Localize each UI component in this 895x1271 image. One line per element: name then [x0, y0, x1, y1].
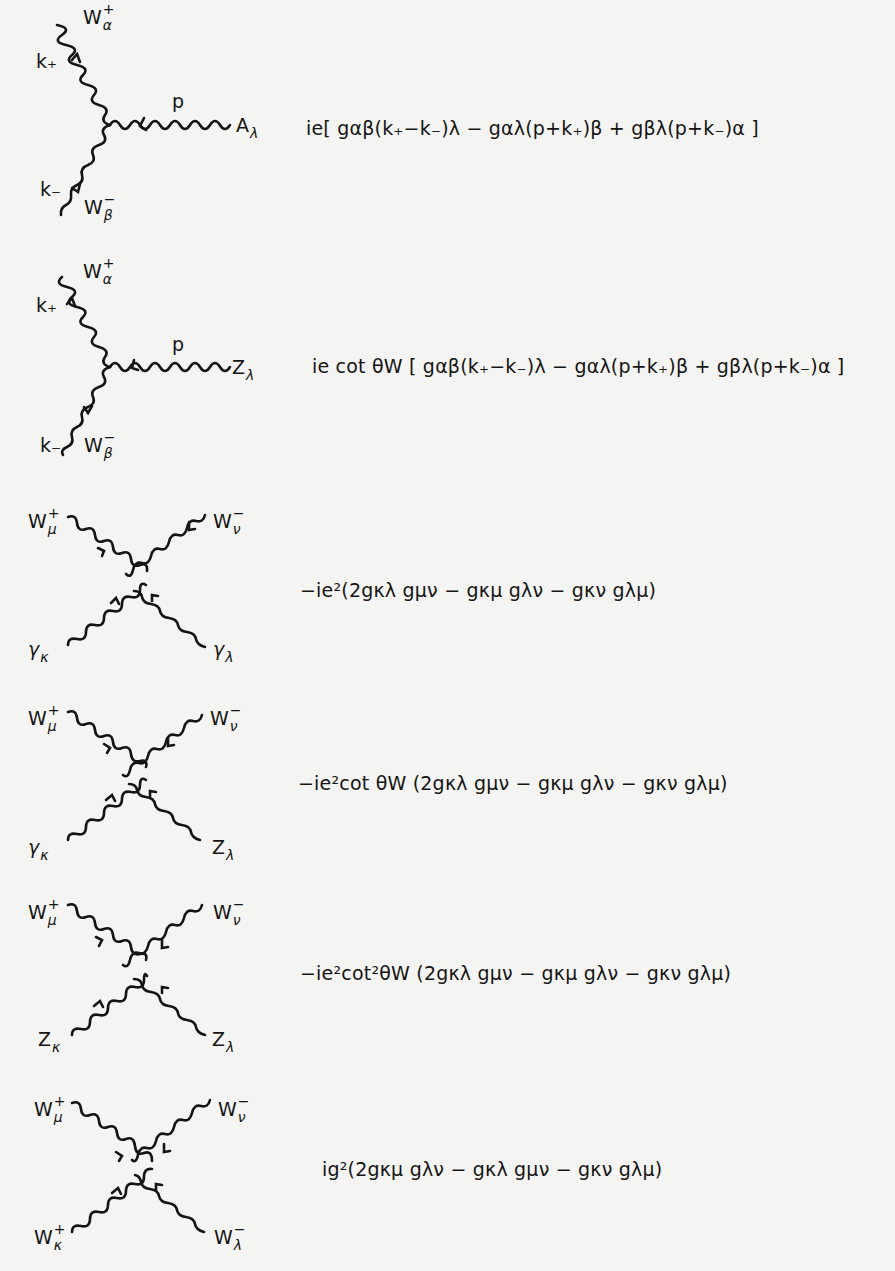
label-w-mu-plus: W+μ — [28, 709, 47, 728]
label-z-lambda: Zλ — [212, 1030, 225, 1049]
label-w-kappa-plus: W+κ — [34, 1228, 53, 1247]
label-k-plus: k₊ — [36, 52, 57, 71]
label-w-beta-minus: W−β — [84, 436, 103, 455]
label-w-alpha-plus: W+α — [83, 8, 102, 27]
vertex-wwz-diagram — [59, 277, 230, 455]
label-k-minus: k₋ — [40, 436, 61, 455]
feynman-diagrams-canvas — [0, 0, 895, 1271]
feynman-rule-wwaz: −ie²cot θW (2gκλ gμν − gκμ gλν − gκν gλμ… — [298, 772, 728, 794]
label-w-nu-minus: W−ν — [218, 1100, 237, 1119]
label-z-lambda: Zλ — [212, 838, 225, 857]
boson-line-photon — [110, 121, 230, 129]
label-k-plus: k₊ — [36, 296, 57, 315]
feynman-rule-wwww: ig²(2gκμ gλν − gκλ gμν − gκν gλμ) — [322, 1158, 662, 1180]
boson-line-w-plus — [57, 25, 110, 125]
label-p: p — [172, 92, 184, 111]
label-z-lambda: Zλ — [232, 358, 245, 377]
vertex-wwww-diagram — [72, 1100, 210, 1232]
feynman-rule-wwaa: −ie²(2gκλ gμν − gκμ gλν − gκν gλμ) — [300, 579, 656, 601]
label-w-beta-minus: W−β — [84, 198, 103, 217]
label-w-nu-minus: W−ν — [213, 903, 232, 922]
label-a-lambda: Aλ — [236, 116, 249, 135]
vertex-wwaz-diagram — [68, 711, 202, 840]
label-w-mu-plus: W+μ — [28, 903, 47, 922]
label-p: p — [172, 335, 184, 354]
label-gamma-kappa: γκ — [28, 640, 39, 659]
label-w-mu-plus: W+μ — [28, 512, 47, 531]
label-w-nu-minus: W−ν — [213, 512, 232, 531]
label-w-mu-plus: W+μ — [34, 1100, 53, 1119]
vertex-wwaa-diagram — [68, 515, 205, 647]
label-w-lambda-minus: W−λ — [214, 1228, 233, 1247]
vertex-wwa-diagram — [57, 25, 230, 215]
label-z-kappa: Zκ — [38, 1030, 51, 1049]
vertex-wwzz-diagram — [68, 904, 205, 1035]
feynman-rule-wwa: ie[ gαβ(k₊−k₋)λ − gαλ(p+k₊)β + gβλ(p+k₋)… — [306, 117, 759, 139]
label-w-alpha-plus: W+α — [83, 262, 102, 281]
label-gamma-kappa: γκ — [28, 838, 39, 857]
label-k-minus: k₋ — [40, 180, 61, 199]
feynman-rule-wwz: ie cot θW [ gαβ(k₊−k₋)λ − gαλ(p+k₊)β + g… — [312, 355, 844, 377]
feynman-rule-wwzz: −ie²cot²θW (2gκλ gμν − gκμ gλν − gκν gλμ… — [300, 962, 731, 984]
label-w-nu-minus: W−ν — [210, 709, 229, 728]
label-gamma-lambda: γλ — [213, 640, 224, 659]
